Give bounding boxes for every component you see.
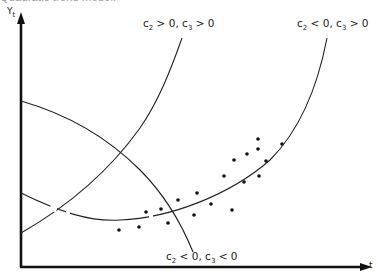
data-point: [280, 142, 284, 146]
data-point: [256, 137, 260, 141]
data-point: [195, 191, 199, 195]
data-point: [159, 207, 163, 211]
data-point: [209, 202, 213, 206]
trend-diagram: [0, 0, 378, 275]
data-point: [192, 213, 196, 217]
data-point: [257, 174, 261, 178]
data-point: [222, 174, 226, 178]
data-point: [144, 210, 148, 214]
data-point: [242, 180, 246, 184]
y-axis-label: Yt: [7, 6, 15, 19]
data-point: [256, 147, 260, 151]
label-c2pos-c3pos: c2 > 0, c3 > 0: [143, 17, 215, 32]
label-c2neg-c3pos: c2 < 0, c3 > 0: [297, 17, 369, 32]
data-point: [264, 159, 268, 163]
label-c2neg-c3neg: c2 < 0, c3 < 0: [166, 250, 238, 265]
data-point: [176, 198, 180, 202]
curve-c2neg-c3pos: [21, 38, 327, 220]
data-point: [137, 225, 141, 229]
y-axis-arrow-icon: [17, 12, 25, 24]
data-point: [232, 158, 236, 162]
curve-c2neg-c3neg: [21, 101, 193, 252]
data-point: [166, 221, 170, 225]
data-point: [245, 152, 249, 156]
data-point: [230, 208, 234, 212]
x-axis-label: t: [369, 260, 373, 270]
data-point: [117, 228, 121, 232]
